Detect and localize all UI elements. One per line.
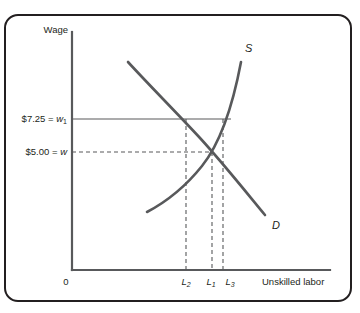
x-tick-label-l2: L2 <box>181 276 190 288</box>
x-tick-label-l1: L1 <box>206 276 215 288</box>
demand-curve-label: D <box>272 219 280 231</box>
minimum-wage-label: $7.25 = w1 <box>22 113 67 125</box>
x-tick-label-l3: L3 <box>225 276 234 288</box>
y-axis-title: Wage <box>44 24 68 35</box>
demand-curve <box>128 62 265 215</box>
supply-curve-label: S <box>245 42 253 54</box>
origin-label: 0 <box>63 276 68 287</box>
supply-demand-chart: Wage Unskilled labor 0 $7.25 = w1 $5.00 … <box>0 0 360 313</box>
x-axis-title: Unskilled labor <box>262 276 324 287</box>
equilibrium-wage-label: $5.00 = w <box>26 146 69 157</box>
supply-curve <box>147 62 241 212</box>
